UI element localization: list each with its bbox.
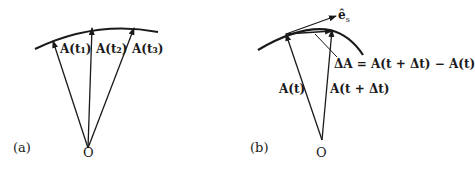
vector-a-t1: [53, 41, 88, 148]
panel-b-figure: [258, 16, 363, 140]
vector-b-t-dt-label: A(t + Δt): [330, 82, 389, 96]
vector-a-t1-label: A(t₁): [60, 42, 91, 56]
vector-a-t2-label: A(t₂): [96, 42, 127, 56]
vector-a-t3-label: A(t₃): [132, 42, 163, 56]
unit-vector-es-label: ês: [338, 8, 350, 24]
unit-vector-sub: s: [346, 15, 350, 24]
origin-a-label: O: [83, 145, 94, 160]
origin-b-label: O: [316, 145, 327, 160]
delta-a-equation: ΔA = A(t + Δt) − A(t): [334, 57, 475, 71]
unit-vector-e: ê: [338, 8, 346, 22]
panel-b-label: (b): [250, 140, 268, 155]
panel-a-label: (a): [13, 140, 31, 155]
vector-b-t-label: A(t): [279, 82, 305, 96]
delta-leader-line: [315, 34, 337, 57]
